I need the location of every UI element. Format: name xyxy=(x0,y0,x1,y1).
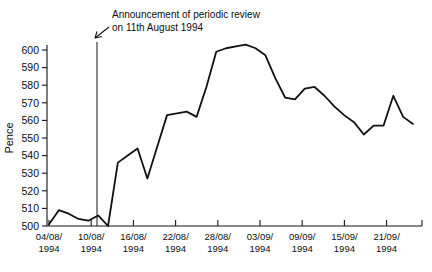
x-tick-label-date: 16/08/ xyxy=(120,231,147,242)
x-axis: 04/08/199410/08/199416/08/199422/08/1994… xyxy=(36,220,400,254)
x-tick-label-date: 04/08/ xyxy=(36,231,63,242)
annotation-line-2: on 11th August 1994 xyxy=(112,22,203,33)
annotation-arrow xyxy=(95,27,109,38)
y-tick-label: 570 xyxy=(21,97,39,109)
x-tick-label-year: 1994 xyxy=(249,243,270,254)
y-tick-label: 560 xyxy=(21,114,39,126)
y-tick-label: 550 xyxy=(21,132,39,144)
y-axis-title: Pence xyxy=(3,122,15,153)
annotation-line-1: Announcement of periodic review xyxy=(112,9,261,20)
y-tick-label: 580 xyxy=(21,79,39,91)
y-tick-label: 510 xyxy=(21,202,39,214)
y-tick-label: 520 xyxy=(21,185,39,197)
x-tick-label-date: 03/09/ xyxy=(247,231,274,242)
y-tick-label: 500 xyxy=(21,220,39,232)
x-tick-label-date: 28/08/ xyxy=(205,231,232,242)
x-tick-label-year: 1994 xyxy=(165,243,186,254)
y-tick-label: 600 xyxy=(21,44,39,56)
y-tick-label: 540 xyxy=(21,149,39,161)
x-tick-label-year: 1994 xyxy=(81,243,102,254)
annotation-text-group: Announcement of periodic review on 11th … xyxy=(112,9,261,33)
y-tick-label: 590 xyxy=(21,61,39,73)
x-tick-label-date: 22/08/ xyxy=(162,231,189,242)
x-tick-label-year: 1994 xyxy=(292,243,313,254)
share-price-line-chart: Announcement of periodic review on 11th … xyxy=(0,0,432,272)
x-tick-label-year: 1994 xyxy=(376,243,397,254)
x-tick-label-date: 21/09/ xyxy=(373,231,400,242)
x-tick-label-year: 1994 xyxy=(123,243,144,254)
x-tick-label-date: 09/09/ xyxy=(289,231,316,242)
x-tick-label-date: 15/09/ xyxy=(331,231,358,242)
y-axis: 500510520530540550560570580590600 xyxy=(21,44,47,232)
x-tick-label-date: 10/08/ xyxy=(78,231,105,242)
x-tick-label-year: 1994 xyxy=(38,243,59,254)
price-series-line xyxy=(49,45,413,226)
y-tick-label: 530 xyxy=(21,167,39,179)
x-tick-label-year: 1994 xyxy=(334,243,355,254)
x-tick-label-year: 1994 xyxy=(207,243,228,254)
chart-page: Announcement of periodic review on 11th … xyxy=(0,0,432,272)
